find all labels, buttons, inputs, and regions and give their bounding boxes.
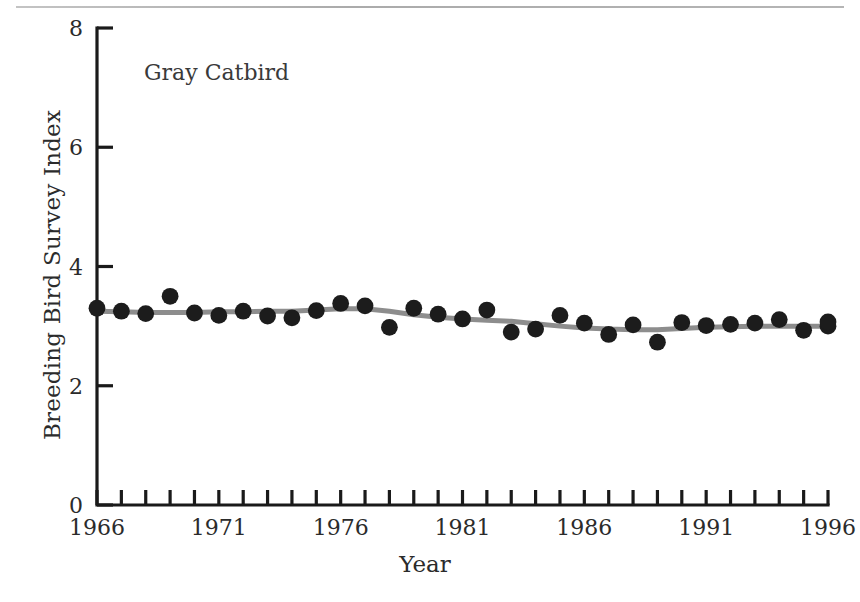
x-tick-label: 1966 — [52, 515, 142, 540]
data-point — [308, 302, 325, 319]
scan-rule-decoration — [16, 6, 844, 8]
data-point — [552, 307, 569, 324]
data-point — [430, 306, 447, 323]
data-point — [649, 334, 666, 351]
data-point — [89, 300, 106, 317]
y-axis-ticks — [97, 28, 113, 505]
x-axis-ticks — [97, 490, 828, 505]
data-point — [527, 321, 544, 338]
data-point — [357, 297, 374, 314]
data-point — [503, 324, 520, 341]
x-tick-label: 1976 — [296, 515, 386, 540]
data-point — [478, 302, 495, 319]
data-point — [747, 315, 764, 332]
data-point — [820, 314, 837, 331]
x-tick-label: 1991 — [661, 515, 751, 540]
data-point — [454, 311, 471, 328]
data-point — [795, 322, 812, 339]
data-point — [137, 305, 154, 322]
data-point — [576, 315, 593, 332]
data-points — [89, 288, 837, 351]
x-axis-title: Year — [0, 551, 850, 577]
y-tick-label: 6 — [43, 135, 83, 160]
data-point — [235, 303, 252, 320]
data-point — [381, 319, 398, 336]
y-tick-label: 0 — [43, 493, 83, 518]
x-tick-label: 1986 — [539, 515, 629, 540]
y-tick-label: 8 — [43, 16, 83, 41]
axis-lines — [97, 28, 828, 505]
data-point — [210, 307, 227, 324]
data-point — [625, 317, 642, 334]
data-point — [771, 311, 788, 328]
series-annotation-label: Gray Catbird — [144, 60, 289, 85]
data-point — [673, 314, 690, 331]
data-point — [113, 303, 130, 320]
x-tick-label: 1981 — [418, 515, 508, 540]
data-point — [722, 316, 739, 333]
data-point — [332, 295, 349, 312]
data-point — [162, 288, 179, 305]
y-tick-label: 4 — [43, 254, 83, 279]
data-point — [259, 308, 276, 325]
x-tick-label: 1971 — [174, 515, 264, 540]
y-tick-label: 2 — [43, 373, 83, 398]
data-point — [186, 305, 203, 322]
data-point — [698, 317, 715, 334]
data-point — [284, 309, 301, 326]
data-point — [405, 300, 422, 317]
x-tick-label: 1996 — [783, 515, 860, 540]
data-point — [600, 326, 617, 343]
